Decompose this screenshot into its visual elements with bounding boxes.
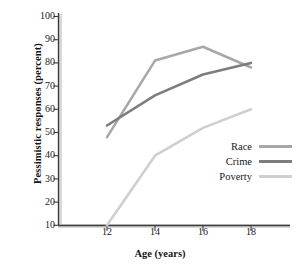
legend-swatch-race <box>259 145 292 148</box>
y-axis-title: Pessimistic responses (percent) <box>32 9 43 219</box>
x-tick-label: 16 <box>183 227 223 237</box>
legend-label-crime: Crime <box>226 156 252 167</box>
x-tick-label: 14 <box>135 227 175 237</box>
legend-label-poverty: Poverty <box>219 171 252 182</box>
series-line-race <box>107 47 251 137</box>
legend-item-poverty: Poverty <box>168 169 292 184</box>
legend-label-race: Race <box>231 141 252 152</box>
chart-figure: 100 90 80 70 60 50 40 30 20 10 12 14 16 … <box>0 0 306 269</box>
x-axis-title: Age (years) <box>60 248 260 259</box>
legend-item-race: Race <box>168 139 292 154</box>
x-tick-label: 18 <box>231 227 271 237</box>
legend-swatch-crime <box>259 160 292 163</box>
legend-item-crime: Crime <box>168 154 292 169</box>
x-tick-label: 12 <box>87 227 127 237</box>
legend-swatch-poverty <box>259 175 292 178</box>
x-axis-tick-labels: 12 14 16 18 <box>0 227 306 241</box>
chart-legend: Race Crime Poverty <box>168 139 292 184</box>
series-line-crime <box>107 63 251 126</box>
